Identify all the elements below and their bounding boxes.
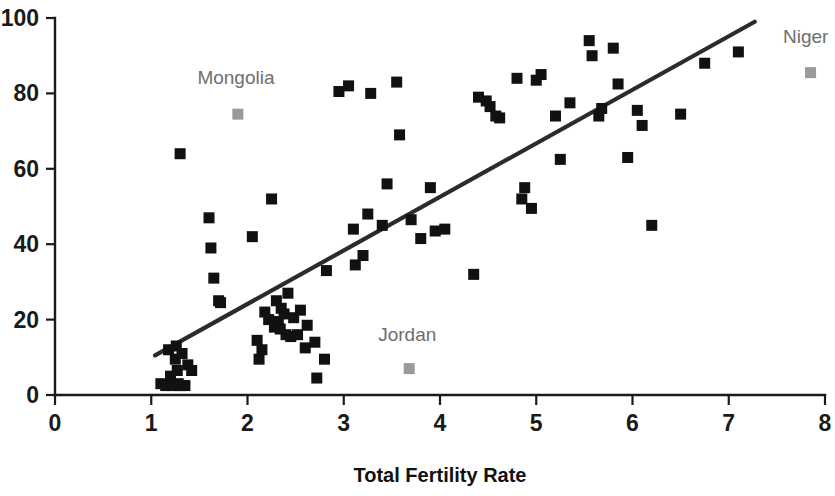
data-point [175,148,186,159]
data-point [295,305,306,316]
data-point [321,265,332,276]
y-tick-label: 20 [13,307,39,333]
data-point [526,203,537,214]
y-tick-label: 100 [1,5,39,31]
data-point [425,182,436,193]
data-point [215,297,226,308]
data-point [292,329,303,340]
highlighted-data-point [805,67,816,78]
x-tick-label: 7 [722,410,735,436]
data-point [622,152,633,163]
y-tick-label: 80 [13,80,39,106]
data-point [348,224,359,235]
data-point [516,193,527,204]
data-point [256,344,267,355]
x-tick-label: 6 [626,410,639,436]
data-point [675,109,686,120]
data-point [311,373,322,384]
data-point [632,105,643,116]
data-point [584,35,595,46]
x-tick-label: 8 [819,410,832,436]
data-point [733,46,744,57]
data-point [186,365,197,376]
data-point [394,129,405,140]
y-tick-label: 40 [13,231,39,257]
x-tick-label: 1 [145,410,158,436]
data-point [343,80,354,91]
x-tick-label: 2 [241,410,254,436]
data-point [300,342,311,353]
data-point [430,226,441,237]
data-point [179,380,190,391]
data-point [646,220,657,231]
data-point [519,182,530,193]
x-axis-title: Total Fertility Rate [354,464,527,486]
data-point [279,308,290,319]
x-tick-label: 4 [434,410,447,436]
data-point [564,97,575,108]
data-point [177,348,188,359]
data-point [550,111,561,122]
plot-area: 020406080100012345678MongoliaJordanNiger… [0,0,835,496]
highlighted-data-point [404,363,415,374]
x-tick-label: 3 [337,410,350,436]
data-point [365,88,376,99]
data-point [205,242,216,253]
data-point-annotation: Niger [783,26,829,47]
x-tick-label: 5 [530,410,543,436]
data-point [282,288,293,299]
data-point [391,77,402,88]
data-point [536,69,547,80]
highlighted-data-point [232,109,243,120]
scatter-chart: 020406080100012345678MongoliaJordanNiger… [0,0,835,496]
data-point [309,337,320,348]
data-point [358,250,369,261]
data-point [333,86,344,97]
data-point [377,220,388,231]
data-point [512,73,523,84]
data-point [319,354,330,365]
data-point [254,354,265,365]
data-point [362,209,373,220]
data-point [247,231,258,242]
data-point [468,269,479,280]
data-point [302,320,313,331]
data-point [439,224,450,235]
data-point [637,120,648,131]
data-point [415,233,426,244]
data-point [555,154,566,165]
data-point [204,212,215,223]
data-point [252,335,263,346]
data-point [699,58,710,69]
data-point [485,101,496,112]
data-point [350,259,361,270]
data-point [406,214,417,225]
data-point [266,193,277,204]
data-point-annotation: Jordan [378,324,436,345]
data-point [172,365,183,376]
data-point-annotation: Mongolia [197,67,275,88]
x-tick-label: 0 [49,410,62,436]
data-point [382,178,393,189]
data-point [587,50,598,61]
data-point [608,43,619,54]
data-point [494,112,505,123]
y-tick-label: 60 [13,156,39,182]
y-tick-label: 0 [26,382,39,408]
data-point [596,103,607,114]
data-point [208,273,219,284]
data-point [613,78,624,89]
